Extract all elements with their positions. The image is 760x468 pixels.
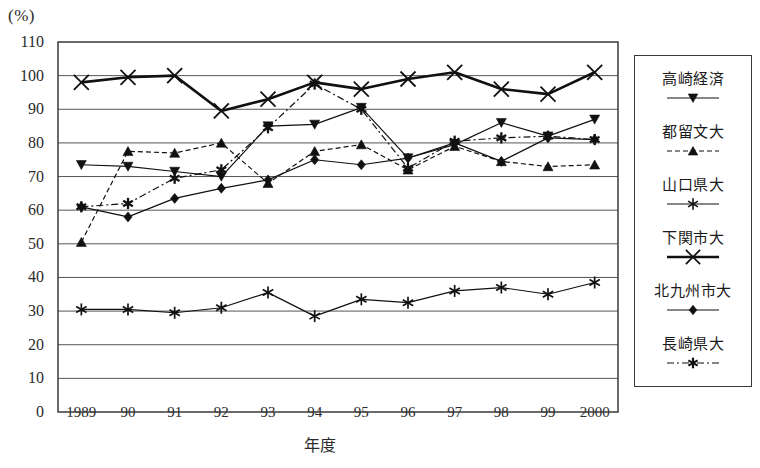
series-3	[76, 277, 600, 323]
legend-item-2[interactable]: 都留文大	[635, 115, 751, 168]
data-point-marker	[171, 193, 179, 203]
data-point-marker	[590, 115, 600, 124]
legend-item-label: 都留文大	[662, 124, 724, 141]
cross-x-icon	[663, 249, 723, 265]
data-point-marker	[124, 212, 132, 222]
legend-item-label: 北九州市大	[654, 283, 732, 300]
data-point-marker	[543, 162, 553, 171]
data-point-marker	[123, 198, 133, 209]
line-chart-figure: (%) 1101009080706050403020100 1989909192…	[0, 0, 760, 468]
series-1	[76, 103, 599, 181]
triangle-down-icon	[663, 90, 723, 106]
legend-item-1[interactable]: 高崎経済	[635, 62, 751, 115]
data-point-marker	[587, 65, 602, 80]
data-point-marker	[76, 237, 86, 246]
triangle-up-icon	[663, 143, 723, 159]
legend-item-label: 山口県大	[662, 177, 724, 194]
data-point-marker	[309, 310, 319, 322]
legend-item-label: 長崎県大	[662, 336, 724, 353]
diamond-icon	[663, 302, 723, 318]
asterisk-icon	[663, 196, 723, 212]
legend: 高崎経済都留文大山口県大下関市大北九州市大長崎県大	[634, 55, 752, 387]
data-point-marker	[589, 277, 599, 289]
legend-item-6[interactable]: 長崎県大	[635, 327, 751, 380]
series-5	[77, 133, 599, 222]
data-point-marker	[311, 155, 319, 165]
series-6	[76, 78, 599, 212]
data-point-marker	[170, 173, 180, 184]
data-point-marker	[496, 118, 506, 127]
data-point-marker	[688, 357, 697, 368]
legend-item-4[interactable]: 下関市大	[635, 221, 751, 274]
legend-item-label: 下関市大	[662, 230, 724, 247]
data-point-marker	[263, 287, 273, 299]
data-point-marker	[590, 160, 600, 169]
legend-item-label: 高崎経済	[662, 71, 724, 88]
series-4	[74, 65, 602, 119]
data-point-marker	[356, 140, 366, 149]
plot-frame	[58, 42, 618, 412]
series-2	[76, 138, 599, 246]
data-point-marker	[310, 147, 320, 156]
data-point-marker	[688, 146, 698, 155]
gridlines	[58, 76, 618, 379]
legend-item-5[interactable]: 北九州市大	[635, 274, 751, 327]
star-burst-icon	[663, 355, 723, 371]
data-point-marker	[357, 160, 365, 170]
legend-item-3[interactable]: 山口県大	[635, 168, 751, 221]
data-point-marker	[217, 183, 225, 193]
data-point-marker	[689, 305, 697, 315]
